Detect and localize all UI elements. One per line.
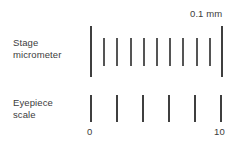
- eyepiece-scale-tick-2: [142, 95, 144, 122]
- eyepiece-scale-tick-4: [194, 95, 196, 122]
- eyepiece-scale-tick-5: [220, 95, 222, 122]
- eyepiece-scale-tick-3: [168, 95, 170, 122]
- calibration-diagram: 0.1 mm Stage micrometer Eyepiece scale 0…: [0, 0, 242, 144]
- eyepiece-scale-tick-1: [116, 95, 118, 122]
- eyepiece-scale-tick-0: [90, 95, 92, 122]
- eyepiece-scale: [0, 0, 242, 144]
